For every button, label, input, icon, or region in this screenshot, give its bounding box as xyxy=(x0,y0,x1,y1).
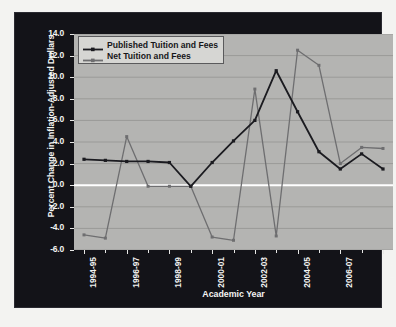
data-point-marker xyxy=(211,236,214,239)
y-tick-label: 10.0 xyxy=(30,72,64,81)
x-tick-mark-minor xyxy=(191,250,192,253)
data-point-marker xyxy=(296,110,299,113)
x-tick-label: 1996-97 xyxy=(131,257,141,288)
legend-item-net[interactable]: Net Tuition and Fees xyxy=(82,50,218,61)
x-tick-mark xyxy=(169,250,170,254)
x-tick-label: 1998-99 xyxy=(173,257,183,288)
data-point-marker xyxy=(104,237,107,240)
x-tick-mark-minor xyxy=(362,250,363,253)
legend-swatch-icon xyxy=(82,40,104,49)
y-tick-label: 6.0 xyxy=(30,115,64,124)
chart-legend: Published Tuition and FeesNet Tuition an… xyxy=(78,36,224,64)
y-tick-label: 0.0 xyxy=(30,180,64,189)
y-tick-label: -2.0 xyxy=(30,202,64,211)
data-point-marker xyxy=(125,160,128,163)
data-point-marker xyxy=(232,139,235,142)
x-tick-mark xyxy=(212,250,213,254)
x-tick-mark xyxy=(255,250,256,254)
x-tick-mark-minor xyxy=(276,250,277,253)
data-point-marker xyxy=(382,147,385,150)
data-point-marker xyxy=(104,159,107,162)
chart-frame: Percent Change in Inflation-Adjusted Dol… xyxy=(14,12,382,308)
x-tick-label: 2004-05 xyxy=(302,257,312,288)
y-tick-label: -6.0 xyxy=(30,245,64,254)
x-tick-label: 2008-09 xyxy=(387,257,396,288)
data-point-marker xyxy=(125,135,128,138)
x-axis-title: Academic Year xyxy=(74,289,393,299)
legend-swatch-icon xyxy=(82,51,104,60)
x-tick-mark xyxy=(127,250,128,254)
x-tick-mark xyxy=(84,250,85,254)
data-point-marker xyxy=(360,146,363,149)
plot-svg xyxy=(74,34,393,250)
y-axis: Percent Change in Inflation-Adjusted Dol… xyxy=(15,13,74,273)
data-point-marker xyxy=(83,233,86,236)
x-tick-label: 2002-03 xyxy=(259,257,269,288)
x-tick-label: 2000-01 xyxy=(216,257,226,288)
y-tick-label: 8.0 xyxy=(30,94,64,103)
y-tick-label: 14.0 xyxy=(30,29,64,38)
x-tick-mark xyxy=(298,250,299,254)
data-point-marker xyxy=(189,185,192,188)
x-tick-mark-minor xyxy=(234,250,235,253)
plot-area xyxy=(74,34,393,250)
y-tick-label: 4.0 xyxy=(30,137,64,146)
data-point-marker xyxy=(275,69,278,72)
data-point-marker xyxy=(232,239,235,242)
data-point-marker xyxy=(317,150,320,153)
x-tick-mark-minor xyxy=(148,250,149,253)
data-point-marker xyxy=(339,162,342,165)
data-point-marker xyxy=(360,152,363,155)
x-tick-mark xyxy=(383,250,384,254)
x-tick-mark-minor xyxy=(105,250,106,253)
y-tick-label: 2.0 xyxy=(30,159,64,168)
x-tick-label: 1994-95 xyxy=(88,257,98,288)
data-point-marker xyxy=(168,185,171,188)
data-point-marker xyxy=(317,64,320,67)
y-tick-label: 12.0 xyxy=(30,51,64,60)
x-tick-mark xyxy=(340,250,341,254)
data-point-marker xyxy=(211,161,214,164)
series-line-net xyxy=(84,50,383,240)
data-point-marker xyxy=(339,167,342,170)
legend-label: Published Tuition and Fees xyxy=(107,40,218,50)
x-tick-mark-minor xyxy=(319,250,320,253)
chart-page: Percent Change in Inflation-Adjusted Dol… xyxy=(0,0,396,327)
data-point-marker xyxy=(275,234,278,237)
data-point-marker xyxy=(253,119,256,122)
data-point-marker xyxy=(296,49,299,52)
series-line-published xyxy=(84,71,383,187)
data-point-marker xyxy=(253,88,256,91)
x-tick-label: 2006-07 xyxy=(344,257,354,288)
data-point-marker xyxy=(147,185,150,188)
data-point-marker xyxy=(381,167,384,170)
data-point-marker xyxy=(168,161,171,164)
legend-label: Net Tuition and Fees xyxy=(107,51,191,61)
data-point-marker xyxy=(82,158,85,161)
y-tick-label: -4.0 xyxy=(30,223,64,232)
legend-item-published[interactable]: Published Tuition and Fees xyxy=(82,39,218,50)
data-point-marker xyxy=(146,160,149,163)
